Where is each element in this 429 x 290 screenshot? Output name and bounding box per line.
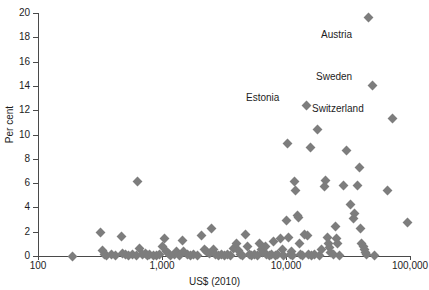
y-axis-title: Per cent — [4, 95, 15, 155]
data-point — [206, 223, 216, 233]
data-point — [306, 143, 316, 153]
y-tick-label: 14 — [0, 81, 30, 91]
point-annotation-estonia: Estonia — [246, 92, 279, 103]
data-point — [338, 181, 348, 191]
data-point — [291, 186, 301, 196]
y-tick-mark — [33, 62, 38, 63]
data-point — [383, 185, 393, 195]
data-point — [68, 251, 78, 261]
data-point — [301, 100, 311, 110]
data-point — [402, 218, 412, 228]
data-point — [177, 236, 187, 246]
point-annotation-austria: Austria — [321, 29, 352, 40]
data-point — [240, 229, 250, 239]
data-point — [281, 216, 291, 226]
y-tick-mark — [33, 110, 38, 111]
point-annotation-switzerland: Switzerland — [312, 103, 364, 114]
y-tick-mark — [33, 159, 38, 160]
data-point — [354, 162, 364, 172]
x-tick-label: 100,000 — [370, 261, 429, 271]
y-tick-mark — [33, 37, 38, 38]
data-point — [133, 177, 143, 187]
y-tick-mark — [33, 86, 38, 87]
y-tick-label: 6 — [0, 178, 30, 188]
x-tick-label: 10,000 — [246, 261, 326, 271]
y-tick-label: 0 — [0, 251, 30, 261]
data-point — [284, 232, 294, 242]
data-point — [368, 81, 378, 91]
data-point — [363, 13, 373, 23]
y-tick-label: 20 — [0, 8, 30, 18]
data-point — [116, 232, 126, 242]
data-point — [312, 124, 322, 134]
data-point — [356, 223, 366, 233]
data-point — [387, 114, 397, 124]
data-point — [353, 181, 363, 191]
y-tick-mark — [33, 135, 38, 136]
x-tick-label: 1,000 — [122, 261, 202, 271]
y-tick-label: 8 — [0, 154, 30, 164]
scatter-chart: 02468101214161820 1001,00010,000100,000 … — [0, 0, 429, 290]
y-tick-mark — [33, 232, 38, 233]
y-tick-mark — [33, 207, 38, 208]
y-tick-mark — [33, 13, 38, 14]
point-annotation-sweden: Sweden — [316, 71, 352, 82]
data-point — [342, 146, 352, 156]
data-point — [295, 239, 305, 249]
y-axis-line — [38, 13, 39, 257]
data-point — [370, 250, 380, 260]
x-axis-title: US$ (2010) — [0, 276, 429, 287]
data-point — [96, 228, 106, 238]
y-tick-label: 2 — [0, 227, 30, 237]
x-tick-label: 100 — [0, 261, 78, 271]
y-tick-label: 16 — [0, 57, 30, 67]
data-point — [197, 231, 207, 241]
y-tick-mark — [33, 183, 38, 184]
data-point — [282, 138, 292, 148]
data-point — [330, 222, 340, 232]
y-tick-label: 18 — [0, 32, 30, 42]
plot-area: 02468101214161820 1001,00010,000100,000 … — [0, 0, 429, 290]
y-tick-label: 4 — [0, 202, 30, 212]
